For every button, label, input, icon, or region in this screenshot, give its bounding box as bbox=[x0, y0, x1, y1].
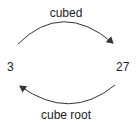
node-27: 27 bbox=[116, 60, 129, 74]
cube-root-label: cube root bbox=[0, 108, 132, 122]
cube-relation-diagram: cubed 3 27 cube root bbox=[0, 0, 140, 124]
cubed-arrow-icon bbox=[18, 22, 113, 44]
node-3: 3 bbox=[7, 60, 14, 74]
cubed-label: cubed bbox=[0, 6, 132, 20]
cube-root-arrow-icon bbox=[20, 85, 115, 104]
